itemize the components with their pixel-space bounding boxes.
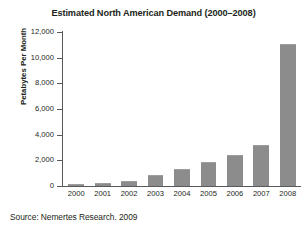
source-note: Source: Nemertes Research. 2009: [10, 212, 137, 222]
y-tick-label: 8,000: [6, 79, 54, 87]
bar: [68, 184, 84, 186]
x-tick-label: 2001: [89, 189, 115, 198]
y-tick-label: 6,000: [6, 105, 54, 113]
y-tick-label: 2,000: [6, 156, 54, 164]
x-axis-line: [62, 186, 301, 187]
x-tick-label: 2006: [222, 189, 248, 198]
y-tick-label: 0: [6, 182, 54, 190]
bar: [227, 155, 243, 186]
y-tick-mark: [57, 186, 62, 187]
x-tick-label: 2002: [116, 189, 142, 198]
bar: [95, 183, 111, 186]
bar-slot: [142, 32, 168, 186]
chart-figure: Estimated North American Demand (2000–20…: [0, 0, 307, 233]
y-tick-mark: [57, 83, 62, 84]
x-tick-label: 2007: [248, 189, 274, 198]
y-tick-label: 4,000: [6, 131, 54, 139]
bar-slot: [275, 32, 301, 186]
y-tick-mark: [57, 32, 62, 33]
bar: [280, 44, 296, 186]
y-tick-mark: [57, 160, 62, 161]
y-tick-mark: [57, 109, 62, 110]
bar-slot: [195, 32, 221, 186]
x-tick-label: 2004: [169, 189, 195, 198]
y-tick-label: 12,000: [6, 28, 54, 36]
x-tick-label: 2000: [63, 189, 89, 198]
bar-slot: [248, 32, 274, 186]
bar-slot: [222, 32, 248, 186]
bar-slot: [116, 32, 142, 186]
y-tick-label: 10,000: [6, 54, 54, 62]
y-tick-mark: [57, 135, 62, 136]
bar-slot: [89, 32, 115, 186]
chart-title: Estimated North American Demand (2000–20…: [0, 8, 307, 19]
bar: [121, 181, 137, 186]
bar: [148, 175, 164, 186]
bar-series: [63, 32, 301, 186]
bar: [201, 162, 217, 186]
bar-slot: [169, 32, 195, 186]
y-tick-mark: [57, 58, 62, 59]
bar: [253, 145, 269, 186]
x-tick-label: 2008: [275, 189, 301, 198]
x-tick-label: 2003: [142, 189, 168, 198]
x-tick-label: 2005: [195, 189, 221, 198]
bar-slot: [63, 32, 89, 186]
bar: [174, 169, 190, 186]
